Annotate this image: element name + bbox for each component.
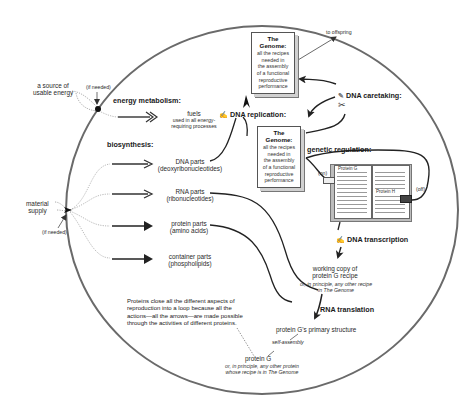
genome-book-top: The Genome: all the recipes needed in th… [251,32,295,94]
protein-g-label: protein G [245,355,271,362]
off-label: (off) [416,186,425,192]
dna-caretaking-label: ✎ DNA caretaking: [338,92,402,99]
energy-if-needed-label: (if needed) [86,84,111,90]
dna-replication-label: ✍ DNA replication: [219,111,286,118]
biosynthesis-product-container: container parts (phospholipids) [160,253,220,268]
biosynthesis-heading: biosynthesis: [107,141,153,148]
pen-writing-icon: ✍ [219,111,228,118]
on-label: (on) [318,170,327,176]
dna-transcription-label: ✍ DNA transcription [336,236,408,243]
protein-g-note: or, in principle, any other protein whos… [222,363,302,375]
fuels-note: used in all energy- requiring processes [162,117,226,129]
genome-open-book: Protein G Protein H [330,164,412,224]
energy-metabolism-heading: energy metabolism: [113,97,181,104]
protein-g-tag: Protein G [338,166,357,171]
pen-writing-icon: ✍ [336,236,345,243]
self-assembly-label: self-assembly [272,339,304,345]
material-if-needed-label: (if needed) [42,229,67,235]
to-offspring-label: to offspring [326,29,352,35]
genome-book-bottom: The Genome: all the recipes needed in th… [257,126,301,188]
biosynthesis-product-protein: protein parts (amino acids) [163,220,215,235]
pencil-eraser-icon: ✎ [338,92,344,99]
protein-h-tag: Protein H [376,189,395,194]
primary-structure-label: protein G's primary structure [276,326,356,333]
genetic-regulation-label: genetic regulation: [307,146,371,153]
working-copy-label: working copy of protein G recipe [300,265,370,280]
rna-translation-label: RNA translation [320,306,374,313]
biosynthesis-product-rna: RNA parts (ribonucleotides) [160,188,220,203]
on-switch-icon [323,177,335,184]
working-copy-note: or, in principle, any other recipe in Th… [298,281,374,293]
energy-source-label: a source of usable energy [33,82,73,97]
material-supply-label: material supply [26,200,49,215]
off-switch-icon [400,195,412,203]
replication-arrow-icon [243,95,250,108]
biosynthesis-product-dna: DNA parts (deoxyribonucleotides) [155,158,225,173]
loop-note: Proteins close all the different aspects… [127,298,243,328]
energy-entry-point-icon [95,106,101,112]
scissors-icon: ✂ [338,102,346,109]
